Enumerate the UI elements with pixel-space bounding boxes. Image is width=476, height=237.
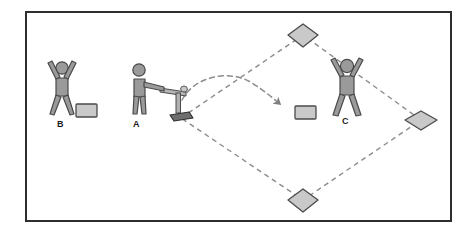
player-b-label: B	[57, 120, 64, 129]
player-c-label: C	[342, 117, 349, 126]
base-second	[288, 24, 318, 47]
player-a-label: A	[133, 120, 140, 129]
diagram-stage: B A C	[0, 0, 476, 237]
ball-trajectory	[182, 76, 280, 104]
glove-near-c	[295, 106, 316, 119]
player-c	[331, 58, 363, 116]
glove-near-b	[76, 104, 97, 117]
player-a	[133, 64, 164, 114]
base-third	[288, 189, 318, 212]
scene-graphics	[0, 0, 476, 237]
player-b	[48, 61, 76, 115]
